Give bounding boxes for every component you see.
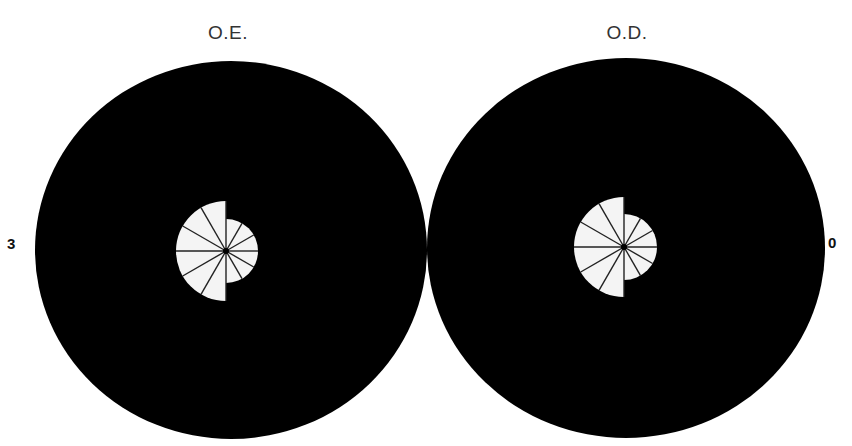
left-eye-field [35,61,427,439]
visual-field-diagram [0,0,852,446]
fixation-point [621,244,627,250]
right-eye-field [427,58,825,438]
fixation-point [223,248,229,254]
